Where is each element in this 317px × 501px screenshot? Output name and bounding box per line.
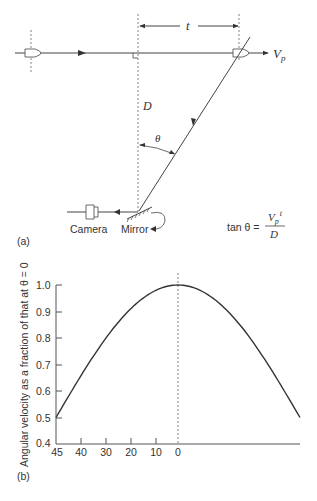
svg-text:0.7: 0.7: [36, 359, 51, 371]
t-label: t: [186, 18, 190, 33]
theta-arc-left-arrow-icon: [139, 143, 145, 147]
camera-label: Camera: [70, 223, 108, 235]
right-angle-marker: [133, 53, 138, 58]
panel-b-label: (b): [17, 470, 30, 482]
formula-lhs: tan θ =: [227, 221, 259, 233]
svg-text:40: 40: [75, 446, 87, 458]
formula-numerator: Vpt: [268, 209, 283, 226]
direction-arrow-icon: [78, 50, 86, 56]
y-tick-labels: 1.0 0.9 0.8 0.7 0.6 0.5 0.4: [36, 279, 51, 449]
panel-b-chart: Angular velocity as a fraction of that a…: [17, 262, 300, 482]
camera-arrow-icon: [114, 209, 120, 215]
panel-a-diagram: t Vp D θ Camera Mirror: [15, 14, 286, 247]
y-ticks: [56, 285, 62, 418]
y-axis-label: Angular velocity as a fraction of that a…: [18, 262, 30, 467]
svg-text:0.4: 0.4: [36, 437, 51, 449]
svg-text:20: 20: [125, 446, 137, 458]
svg-text:0.9: 0.9: [36, 306, 51, 318]
panel-a-label: (a): [17, 235, 30, 247]
mirror-rotation-arrow-icon: [150, 226, 156, 232]
tan-theta-formula: tan θ = Vpt D: [227, 209, 285, 240]
mirror-icon: [127, 207, 152, 222]
velocity-label: Vp: [273, 46, 286, 63]
left-boat-icon: [25, 49, 41, 57]
svg-text:10: 10: [150, 446, 162, 458]
distance-label: D: [142, 99, 152, 113]
svg-text:30: 30: [100, 446, 112, 458]
formula-denominator: D: [269, 228, 278, 240]
theta-label: θ: [155, 132, 161, 144]
mirror-label: Mirror: [121, 223, 149, 235]
theta-arc: [140, 145, 174, 154]
sight-line: [139, 37, 250, 211]
x-tick-labels: 45 40 30 20 10 0: [51, 446, 181, 458]
figure-canvas: t Vp D θ Camera Mirror: [0, 0, 317, 501]
svg-text:0.8: 0.8: [36, 332, 51, 344]
x-ticks: [81, 438, 156, 444]
svg-text:0: 0: [175, 446, 181, 458]
svg-text:1.0: 1.0: [36, 279, 51, 291]
svg-text:0.5: 0.5: [36, 412, 51, 424]
svg-text:45: 45: [51, 446, 63, 458]
camera-icon: [86, 205, 98, 219]
mirror-rotation-arrow: [151, 212, 165, 229]
svg-text:0.6: 0.6: [36, 385, 51, 397]
